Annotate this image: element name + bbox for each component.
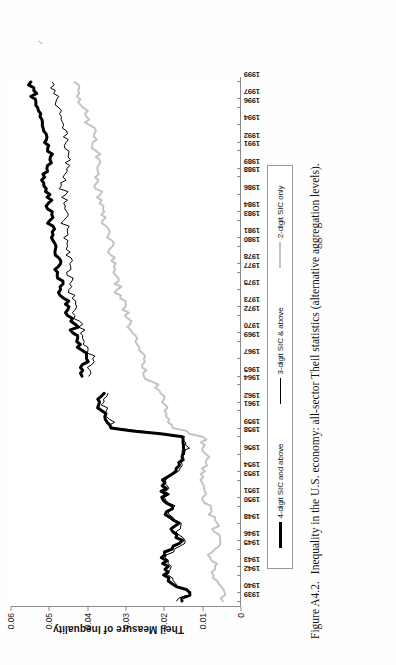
x-tick-label: 1972: [244, 304, 260, 313]
x-tick-label: 1965: [244, 365, 260, 374]
scanned-page: 00.010.020.030.040.050.06 Theil Measure …: [0, 0, 396, 665]
x-tick-label: 1988: [244, 165, 260, 174]
x-tick-label: 1997: [244, 87, 260, 96]
figure-number: Figure A4.2.: [309, 581, 321, 639]
x-tick-label: 1961: [244, 399, 260, 408]
x-tick-mark: [237, 98, 241, 99]
x-tick-mark: [237, 523, 241, 524]
y-tick-mark: [126, 607, 127, 611]
x-tick-mark: [237, 540, 241, 541]
x-tick-mark: [237, 315, 241, 316]
x-tick-label: 1954: [244, 460, 260, 469]
x-tick-mark: [237, 272, 241, 273]
x-tick-label: 1989: [244, 157, 260, 166]
x-tick-label: 1983: [244, 209, 260, 218]
y-tick-mark: [49, 607, 50, 611]
x-tick-mark: [237, 142, 241, 143]
legend-label: 2-digit SIC only: [276, 186, 285, 239]
x-tick-mark: [237, 428, 241, 429]
plot-area: [11, 77, 241, 607]
x-tick-label: 1967: [244, 347, 260, 356]
series-line: [29, 82, 89, 376]
x-tick-label: 1962: [244, 391, 260, 400]
x-tick-mark: [237, 592, 241, 593]
x-tick-label: 1945: [244, 538, 260, 547]
x-tick-label: 1958: [244, 425, 260, 434]
x-tick-label: 1999: [244, 70, 260, 79]
x-tick-label: 1969: [244, 330, 260, 339]
x-tick-mark: [237, 124, 241, 125]
x-tick-label: 1964: [244, 373, 260, 382]
x-tick-label: 1970: [244, 321, 260, 330]
x-tick-mark: [237, 107, 241, 108]
x-tick-label: 1977: [244, 261, 260, 270]
series-canvas: [11, 77, 240, 606]
x-tick-mark: [237, 566, 241, 567]
x-tick-label: 1939: [244, 590, 260, 599]
x-tick-label: 1996: [244, 96, 260, 105]
rotated-figure: 00.010.020.030.040.050.06 Theil Measure …: [0, 13, 339, 653]
x-tick-label: 1942: [244, 564, 260, 573]
x-tick-label: 1980: [244, 235, 260, 244]
x-tick-mark: [237, 454, 241, 455]
legend-item: 4-digit SIC and above: [276, 444, 285, 549]
x-tick-mark: [237, 332, 241, 333]
x-tick-mark: [237, 358, 241, 359]
x-tick-mark: [237, 176, 241, 177]
x-tick-mark: [237, 480, 241, 481]
x-tick-mark: [237, 471, 241, 472]
x-tick-label: 1981: [244, 226, 260, 235]
legend: 4-digit SIC and above3-digit SIC & above…: [267, 165, 293, 569]
x-tick-mark: [237, 237, 241, 238]
x-tick-label: 1940: [244, 581, 260, 590]
x-tick-mark: [237, 376, 241, 377]
figure-caption-text: Inequality in the U.S. economy: all-sect…: [309, 163, 321, 574]
series-line: [98, 393, 190, 601]
x-tick-mark: [237, 246, 241, 247]
x-tick-label: 1956: [244, 443, 260, 452]
x-tick-mark: [237, 384, 241, 385]
x-tick-mark: [237, 263, 241, 264]
x-tick-mark: [237, 150, 241, 151]
x-tick-mark: [237, 506, 241, 507]
x-tick-label: 1959: [244, 417, 260, 426]
x-tick-mark: [237, 549, 241, 550]
x-tick-label: 1950: [244, 495, 260, 504]
y-tick-mark: [202, 607, 203, 611]
legend-line-icon: [279, 522, 282, 548]
x-tick-label: 1946: [244, 529, 260, 538]
series-line: [74, 82, 225, 601]
y-tick-mark: [164, 607, 165, 611]
y-tick-mark: [87, 607, 88, 611]
x-tick-label: 1994: [244, 113, 260, 122]
x-tick-mark: [237, 306, 241, 307]
x-tick-label: 1948: [244, 512, 260, 521]
legend-line-icon: [279, 242, 281, 268]
figure-caption: Figure A4.2.Inequality in the U.S. econo…: [309, 27, 321, 639]
series-line: [101, 393, 191, 601]
x-tick-label: 1943: [244, 555, 260, 564]
legend-line-icon: [280, 378, 281, 404]
legend-label: 3-digit SIC & above: [276, 307, 285, 374]
x-tick-mark: [237, 81, 241, 82]
x-tick-label: 1984: [244, 200, 260, 209]
x-tick-mark: [237, 402, 241, 403]
x-tick-label: 1986: [244, 183, 260, 192]
y-axis-title: Theil Measure of Inequality: [9, 624, 229, 635]
x-tick-mark: [237, 341, 241, 342]
chart: 00.010.020.030.040.050.06 Theil Measure …: [3, 63, 250, 653]
x-tick-mark: [237, 436, 241, 437]
x-tick-mark: [237, 220, 241, 221]
x-tick-mark: [237, 601, 241, 602]
x-tick-mark: [237, 497, 241, 498]
x-tick-label: 1992: [244, 131, 260, 140]
x-tick-mark: [237, 194, 241, 195]
x-tick-label: 1991: [244, 139, 260, 148]
legend-item: 2-digit SIC only: [276, 186, 285, 269]
x-tick-label: 1978: [244, 252, 260, 261]
x-tick-mark: [237, 289, 241, 290]
y-tick-mark: [11, 607, 12, 611]
x-tick-label: 1973: [244, 295, 260, 304]
y-tick-mark: [241, 607, 242, 611]
x-tick-mark: [237, 168, 241, 169]
